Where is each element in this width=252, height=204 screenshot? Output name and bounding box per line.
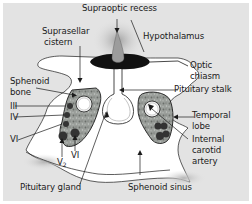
label-sphenoid-bone-2: bone [10, 87, 31, 97]
label-internal-carotid-2: carotid [192, 145, 221, 155]
label-suprasellar-cistern-2: cistern [44, 37, 72, 47]
label-pituitary-stalk: Pituitary stalk [174, 84, 232, 94]
label-optic-chiasm-1: Optic [190, 60, 212, 70]
label-nerve-V2: V2 [57, 157, 67, 170]
label-internal-carotid-3: artery [192, 156, 217, 166]
nerve-IV-left [64, 112, 70, 118]
pituitary-anatomy-diagram [0, 0, 252, 204]
nerve-V1-right [161, 123, 168, 130]
left-internal-carotid-lumen [78, 98, 90, 110]
nerve-III-left [67, 103, 73, 109]
nerve-x-right [163, 131, 170, 138]
label-nerve-III: III [10, 101, 17, 111]
label-sphenoid-bone-1: Sphenoid [10, 76, 49, 86]
label-nerve-VI-bottom: VI [71, 150, 79, 160]
label-nerve-IV: IV [10, 112, 18, 122]
label-pituitary-gland: Pituitary gland [20, 182, 81, 192]
nerve-V1-left [63, 121, 69, 127]
label-sphenoid-sinus: Sphenoid sinus [128, 182, 192, 192]
label-nerve-VI-left: VI [10, 134, 18, 144]
label-nerve-V2-subscript: 2 [63, 161, 67, 168]
label-suprasellar-cistern-1: Suprasellar [42, 26, 89, 36]
label-temporal-lobe-2: lobe [192, 121, 210, 131]
label-hypothalamus: Hypothalamus [143, 31, 204, 41]
label-temporal-lobe-1: Temporal [192, 110, 231, 120]
label-supraoptic-recess: Supraoptic recess [82, 3, 157, 13]
label-optic-chiasm-2: chiasm [190, 71, 220, 81]
label-internal-carotid-1: Internal [192, 134, 224, 144]
nerve-VI-right [155, 123, 162, 130]
nerve-V2-left [59, 132, 68, 141]
